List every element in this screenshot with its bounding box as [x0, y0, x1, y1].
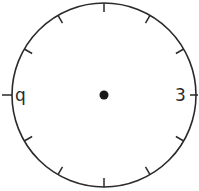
tick-5 — [146, 167, 151, 175]
center-dot — [100, 91, 109, 100]
tick-2 — [176, 49, 184, 54]
tick-8 — [24, 137, 32, 142]
tick-11 — [58, 15, 63, 23]
label-three: 3 — [175, 85, 186, 105]
label-nine: q — [15, 85, 26, 105]
tick-10 — [24, 49, 32, 54]
tick-1 — [146, 15, 151, 23]
clock-face: q 3 — [0, 0, 199, 191]
tick-4 — [176, 137, 184, 142]
tick-7 — [58, 167, 63, 175]
